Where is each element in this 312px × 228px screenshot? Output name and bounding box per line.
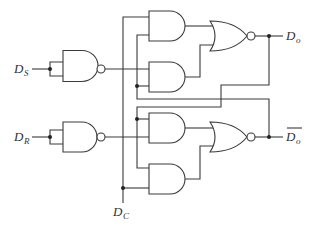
inverter-bubble <box>97 65 105 73</box>
output-do: D o <box>285 28 301 45</box>
junction-dot <box>267 34 271 38</box>
nand-gate-s <box>63 50 149 81</box>
nor-gate-top <box>210 21 283 51</box>
logic-circuit-diagram: D S D R D C <box>0 0 312 228</box>
label-do-bar-main: D <box>285 129 296 144</box>
label-dc-main: D <box>112 204 123 219</box>
label-do-sub: o <box>296 35 301 45</box>
junction-dot <box>267 135 271 139</box>
and-gate-4 <box>149 146 213 194</box>
and-gate-3 <box>149 113 213 143</box>
input-dr: D R <box>13 129 63 146</box>
label-do-bar-sub: o <box>296 136 301 146</box>
inverter-bubble <box>247 32 255 40</box>
label-dc-sub: C <box>123 211 130 221</box>
junction-dot <box>135 84 139 88</box>
label-ds-sub: S <box>24 68 29 78</box>
label-dr-main: D <box>13 129 24 144</box>
junction-dot <box>121 186 125 190</box>
inverter-bubble <box>97 133 105 141</box>
junction-dot <box>48 67 52 71</box>
label-do-main: D <box>285 28 296 43</box>
inverter-bubble <box>247 133 255 141</box>
feedback-wiring <box>135 35 269 168</box>
label-dr-sub: R <box>23 136 30 146</box>
and-gate-1 <box>149 11 213 41</box>
and-gate-2 <box>149 45 213 92</box>
input-ds: D S <box>13 61 63 78</box>
label-ds-main: D <box>13 61 24 76</box>
nand-gate-r <box>63 122 149 152</box>
output-do-bar: D o <box>285 128 302 146</box>
junction-dot <box>135 117 139 121</box>
junction-dot <box>48 135 52 139</box>
nor-gate-bottom <box>210 122 283 152</box>
